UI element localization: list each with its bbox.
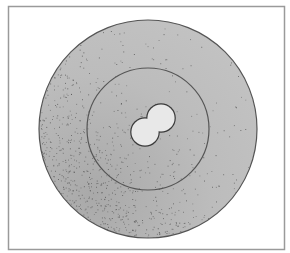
concentric-circle-diagram — [0, 0, 290, 253]
